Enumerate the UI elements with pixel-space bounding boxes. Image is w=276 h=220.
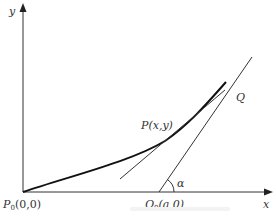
tangent-line [120, 90, 225, 179]
x-axis-arrow-icon [264, 189, 273, 196]
point-q-label: Q [236, 92, 245, 103]
faint-caption [130, 207, 230, 211]
angle-arc [168, 180, 175, 192]
diagram: y x P0(0,0) P(x,y) Q0(a,0) Q α [0, 0, 276, 220]
point-p-label: P(x,y) [141, 120, 173, 131]
angle-alpha-label: α [177, 178, 184, 189]
diagram-canvas [0, 0, 276, 220]
origin-label: P0(0,0) [3, 199, 41, 212]
y-axis-label: y [9, 6, 15, 17]
y-axis-arrow-icon [20, 3, 27, 12]
x-axis-label: x [263, 199, 269, 210]
origin-coords: (0,0) [15, 198, 41, 211]
